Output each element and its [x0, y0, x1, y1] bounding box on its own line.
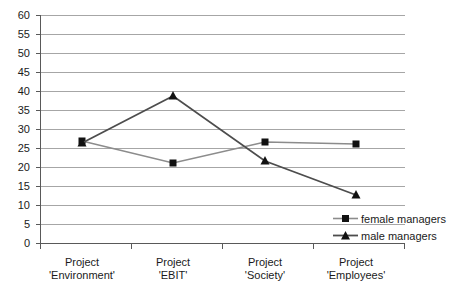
legend-item-female-managers: female managers: [361, 213, 446, 225]
y-tick-25: 25: [4, 143, 30, 154]
y-tick-40: 40: [4, 86, 30, 97]
chart-plot-area: [0, 0, 466, 296]
data-point-male-society: [261, 156, 270, 165]
x-category-employees-line1: Project: [301, 256, 411, 269]
y-tick-45: 45: [4, 67, 30, 78]
y-tick-10: 10: [4, 200, 30, 211]
y-tick-50: 50: [4, 48, 30, 59]
line-chart: 60 55 50 45 40 35 30 25 20 15 10 5 0 Pro…: [0, 0, 466, 296]
data-point-male-ebit: [169, 91, 178, 100]
data-point-female-society: [262, 139, 269, 146]
y-tick-55: 55: [4, 29, 30, 40]
y-tick-60: 60: [4, 10, 30, 21]
legend-markers: [333, 215, 358, 240]
y-tick-30: 30: [4, 124, 30, 135]
legend-item-male-managers: male managers: [361, 230, 437, 242]
data-point-female-employees: [353, 141, 360, 148]
data-point-female-ebit: [170, 160, 177, 167]
y-tick-20: 20: [4, 162, 30, 173]
series-female-managers-line: [82, 141, 356, 163]
y-tick-35: 35: [4, 105, 30, 116]
y-tick-15: 15: [4, 181, 30, 192]
y-tick-0: 0: [4, 238, 30, 249]
legend-marker-square-icon: [342, 215, 349, 222]
series-male-managers: [78, 91, 361, 199]
x-category-employees-line2: 'Employees': [301, 269, 411, 282]
y-tick-5: 5: [4, 219, 30, 230]
series-female-managers: [79, 138, 360, 167]
y-axis-ticks: [36, 16, 40, 244]
